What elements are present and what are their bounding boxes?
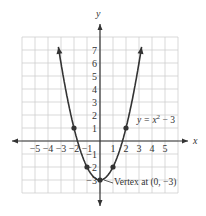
svg-text:1: 1 <box>111 143 116 154</box>
vertex-pointer <box>104 180 113 183</box>
equation-label: y = x2 − 3 <box>136 113 175 125</box>
svg-text:6: 6 <box>92 58 97 69</box>
svg-text:3: 3 <box>92 97 97 108</box>
svg-text:5: 5 <box>163 143 168 154</box>
svg-text:5: 5 <box>92 71 97 82</box>
svg-text:−1: −1 <box>86 149 97 160</box>
svg-text:2: 2 <box>124 143 129 154</box>
svg-text:7: 7 <box>92 45 97 56</box>
y-axis-label: y <box>95 8 101 19</box>
svg-text:2: 2 <box>92 110 97 121</box>
x-axis-label: x <box>192 135 198 146</box>
svg-text:1: 1 <box>92 123 97 134</box>
svg-text:−4: −4 <box>43 143 54 154</box>
svg-text:4: 4 <box>150 143 155 154</box>
svg-text:3: 3 <box>137 143 142 154</box>
vertex-annotation: Vertex at (0, −3) <box>114 177 176 188</box>
svg-text:4: 4 <box>92 84 97 95</box>
svg-text:−5: −5 <box>30 143 41 154</box>
parabola-graph: −5−4−3−2−1123457654321−1−2−3 y x y = x2 … <box>0 0 206 216</box>
svg-text:−3: −3 <box>56 143 67 154</box>
svg-text:−3: −3 <box>86 175 97 186</box>
